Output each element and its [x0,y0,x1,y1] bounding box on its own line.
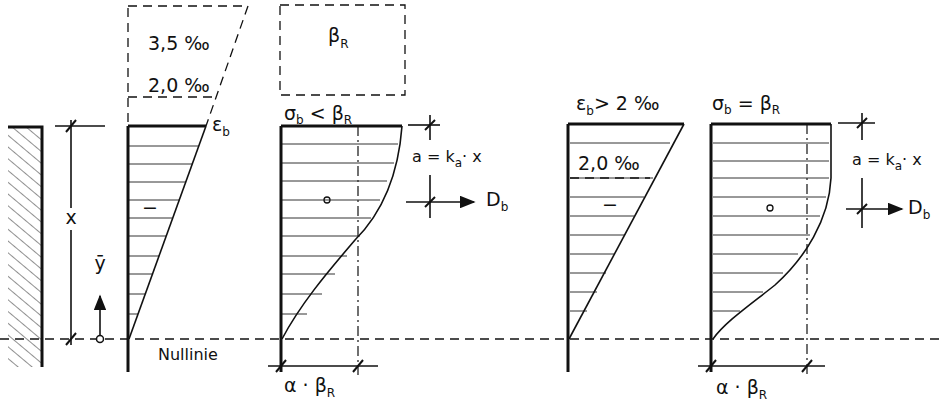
compression-sign-right: − [602,193,618,215]
force-label-right: Db [908,196,930,222]
depth-label: x [65,206,76,228]
stress-diagram-left: βR σb < βR a = ka· x Db α · βR [268,5,508,400]
strain-max-label: 3,5 ‰ [148,32,210,54]
lever-arm-label-left: a = ka· x [412,147,482,170]
strain-diagram-left: 3,5 ‰ 2,0 ‰ εb − Nullinie [128,6,248,372]
ybar-label: ȳ [94,252,105,274]
strain-mid-label-right: 2,0 ‰ [578,152,640,174]
stress-strain-diagram: x ȳ 3,5 ‰ 2,0 ‰ εb − Nullinie βR σb < βR [0,0,944,414]
cross-section [8,127,42,367]
strain-diagram-right: εb> 2 ‰ 2,0 ‰ − [568,92,684,372]
strain-condition-right: εb> 2 ‰ [576,92,660,118]
compression-sign: − [142,196,158,218]
stress-condition-right: σb = βR [712,92,780,117]
stress-diagram-right: σb = βR a = ka· x Db α · βR [698,92,930,402]
neutral-axis-label: Nullinie [158,345,218,364]
depth-dimension: x [55,120,105,345]
lever-arm-label-right: a = ka· x [852,150,922,173]
strength-label: βR [328,24,348,51]
stress-width-label-right: α · βR [716,376,767,402]
stress-condition-left: σb < βR [284,102,352,127]
strain-edge-label: εb [212,113,230,139]
stress-width-label-left: α · βR [284,374,335,400]
coordinate-arrow: ȳ [94,252,105,343]
force-label-left: Db [486,188,508,214]
strain-mid-label: 2,0 ‰ [148,74,210,96]
